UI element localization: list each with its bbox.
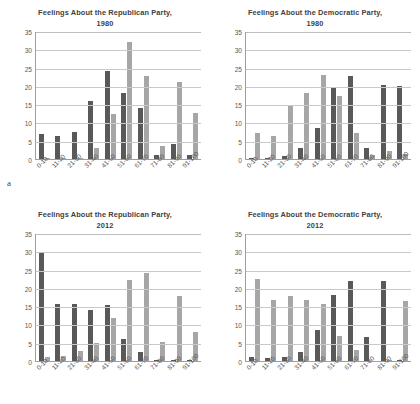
y-axis-rep2012: 05101520253035 [16,234,32,362]
x-tick: 61-70 [345,364,362,404]
x-tick: 31-40 [295,364,312,404]
bar-series1 [88,310,93,361]
bar-series2 [144,273,149,361]
x-tick: 21-30 [68,162,85,202]
y-tick-label: 5 [238,340,242,347]
bar-series1 [121,93,126,159]
x-tick: 31-40 [85,364,102,404]
y-tick-label: 35 [235,231,242,238]
gridline [246,252,411,253]
gridline [246,234,411,235]
y-tick-label: 35 [235,29,242,36]
bar-series2 [321,304,326,361]
gridline [36,307,201,308]
chart-title-line2: 2012 [218,220,412,231]
y-tick-label: 30 [25,249,32,256]
gridline [36,344,201,345]
x-tick: 0-10 [35,364,52,404]
bar-series2 [255,279,260,361]
y-tick-label: 0 [28,359,32,366]
y-axis-rep1980: 05101520253035 [16,32,32,160]
x-axis-rep1980: 0-1011-2021-3031-4041-5051-6061-7071-808… [35,162,201,202]
x-tick: 11-20 [262,162,279,202]
x-tick: 51-60 [328,162,345,202]
chart-panel-dem1980: Feelings About the Democratic Party, 198… [210,0,420,202]
plot-area-rep2012: 05101520253035 0-1011-2021-3031-4041-505… [0,234,210,404]
x-tick: 71-80 [151,162,168,202]
bar-series2 [177,82,182,159]
gridline [36,142,201,143]
figure-row-a: Feelings About the Republican Party, 198… [0,0,420,202]
x-tick: 81-90 [168,364,185,404]
x-tick: 81-90 [168,162,185,202]
y-tick-label: 0 [238,359,242,366]
x-tick: 71-80 [361,364,378,404]
gridline [246,105,411,106]
y-tick-label: 5 [28,138,32,145]
bar-series2 [304,93,309,159]
gridline [246,32,411,33]
plot-area-dem1980: 05101520253035 0-1011-2021-3031-4041-505… [210,32,420,202]
x-tick: 41-50 [101,364,118,404]
bar-series2 [288,296,293,361]
bar-series1 [381,85,386,159]
chart-panel-rep2012: Feelings About the Republican Party, 201… [0,202,210,404]
y-tick-label: 15 [25,304,32,311]
x-axis-rep2012: 0-1011-2021-3031-4041-5051-6061-7071-808… [35,364,201,404]
x-tick: 71-80 [151,364,168,404]
gridline [36,32,201,33]
chart-title-line2: 1980 [218,18,412,29]
plot-area-dem2012: 05101520253035 0-1011-2021-3031-4041-505… [210,234,420,404]
x-tick: 61-70 [135,364,152,404]
x-tick: 71-80 [361,162,378,202]
x-tick: 91-100 [394,162,411,202]
gridline [36,271,201,272]
bar-series2 [271,300,276,361]
figure-row-b: Feelings About the Republican Party, 201… [0,202,420,404]
x-tick: 11-20 [52,162,69,202]
x-tick: 41-50 [311,364,328,404]
chart-title-line2: 1980 [8,18,202,29]
x-tick: 81-90 [378,162,395,202]
y-tick-label: 35 [25,231,32,238]
y-tick-label: 30 [235,249,242,256]
gridline [36,87,201,88]
x-tick: 51-60 [118,364,135,404]
y-tick-label: 0 [28,157,32,164]
bar-series2 [144,76,149,159]
y-tick-label: 35 [25,29,32,36]
panel-label-a: a [7,178,11,188]
x-tick: 61-70 [345,162,362,202]
chart-title-line1: Feelings About the Democratic Party, [248,8,382,17]
bar-series2 [177,296,182,361]
y-tick-label: 25 [235,267,242,274]
y-tick-label: 5 [28,340,32,347]
bar-series1 [348,281,353,361]
y-tick-label: 20 [235,285,242,292]
bar-series1 [138,108,143,159]
plot-canvas-rep1980 [35,32,201,160]
gridline [36,252,201,253]
y-tick-label: 5 [238,138,242,145]
x-tick: 91-100 [394,364,411,404]
gridline [246,50,411,51]
gridline [246,142,411,143]
y-tick-label: 20 [25,285,32,292]
gridline [36,234,201,235]
bar-series1 [105,305,110,361]
x-tick: 91-100 [184,364,201,404]
chart-title-dem1980: Feelings About the Democratic Party, 198… [218,7,412,29]
x-axis-dem1980: 0-1011-2021-3031-4041-5051-6061-7071-808… [245,162,411,202]
gridline [246,344,411,345]
y-axis-dem1980: 05101520253035 [226,32,242,160]
y-tick-label: 10 [235,322,242,329]
plot-canvas-rep2012 [35,234,201,362]
bar-series2 [127,280,132,361]
x-tick: 0-10 [245,162,262,202]
x-tick: 81-90 [378,364,395,404]
gridline [36,325,201,326]
gridline [36,105,201,106]
y-tick-label: 10 [235,120,242,127]
gridline [246,123,411,124]
y-tick-label: 15 [235,102,242,109]
